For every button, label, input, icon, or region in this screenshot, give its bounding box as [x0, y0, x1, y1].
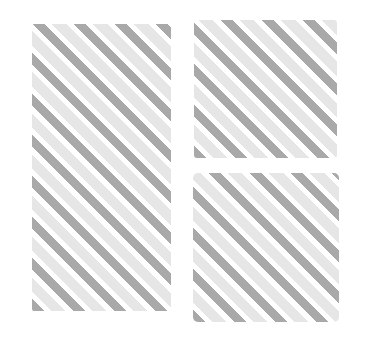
striped-panels-canvas	[0, 0, 365, 359]
striped-panel-left	[32, 24, 171, 311]
striped-panel-bottom-right	[193, 173, 339, 322]
striped-panel-top-right	[194, 20, 337, 158]
